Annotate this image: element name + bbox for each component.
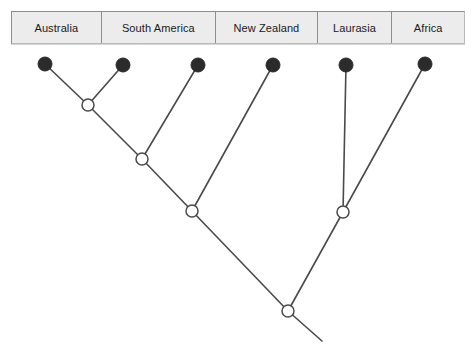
tip-node-new-zealand	[266, 58, 280, 72]
branch-southamerica	[88, 65, 123, 105]
branch-laurasia	[343, 65, 346, 212]
node-australia-southamerica	[82, 99, 94, 111]
tip-node-laurasia	[339, 58, 353, 72]
branch-tip3-node2	[142, 65, 198, 159]
branch-africa	[343, 64, 425, 212]
node-gondwana-west	[136, 153, 148, 165]
branch-node3-root	[192, 211, 288, 311]
internal-node-group	[82, 99, 349, 317]
node-root	[282, 305, 294, 317]
tip-node-new-zealand-left	[191, 58, 205, 72]
branch-node1-node2	[88, 105, 142, 159]
branch-newzealand	[192, 65, 273, 211]
node-laurasia-africa	[337, 206, 349, 218]
tip-node-group	[38, 57, 432, 72]
branch-group	[45, 64, 425, 341]
branch-node2-node3	[142, 159, 192, 211]
branch-node4-root	[288, 212, 343, 311]
branch-root-stem	[288, 311, 322, 341]
tip-node-south-america	[116, 58, 130, 72]
cladogram-figure: AustraliaSouth AmericaNew ZealandLaurasi…	[0, 0, 476, 359]
branch-australia	[45, 64, 88, 105]
tree-canvas	[0, 0, 476, 359]
tip-node-australia	[38, 57, 52, 71]
tip-node-africa	[418, 57, 432, 71]
node-gondwana	[186, 205, 198, 217]
